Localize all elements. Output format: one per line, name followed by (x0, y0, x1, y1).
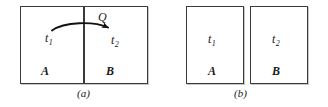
system-label-b1: A (208, 65, 216, 77)
temperature-symbol: t (272, 32, 275, 46)
temperature-label-a1: t1 (45, 32, 52, 44)
temperature-subscript: 2 (115, 40, 119, 49)
thermodynamics-figure: Q t1 t2 A B (a) t1 t2 A B (b) (0, 0, 328, 107)
temperature-subscript: 1 (212, 39, 216, 48)
figure-panel-b: t1 t2 A B (b) (164, 0, 328, 107)
system-label-a1: A (41, 65, 49, 77)
temperature-label-b2: t2 (272, 33, 279, 45)
figure-panel-a: Q t1 t2 A B (a) (0, 0, 164, 107)
system-label-b2: B (272, 65, 280, 77)
temperature-label-a2: t2 (111, 34, 118, 46)
system-label-a2: B (106, 65, 114, 77)
heat-label-a: Q (98, 11, 107, 23)
temperature-symbol: t (45, 31, 48, 45)
curved-arrow-icon (50, 18, 120, 38)
temperature-symbol: t (111, 33, 114, 47)
temperature-subscript: 1 (49, 38, 53, 47)
temperature-subscript: 2 (276, 39, 280, 48)
panel-caption-a: (a) (77, 88, 90, 99)
panel-caption-b: (b) (234, 88, 247, 99)
temperature-label-b1: t1 (208, 33, 215, 45)
temperature-symbol: t (208, 32, 211, 46)
